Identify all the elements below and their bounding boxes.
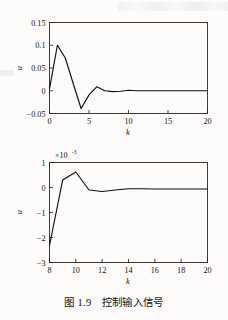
plot-frame-top (50, 23, 208, 114)
series-line-top (50, 45, 208, 108)
x-tick-labels-top: 05101520 (47, 117, 211, 126)
chart-top-control-input: −0.0500.050.10.15 05101520 u k (0, 14, 228, 142)
axis-multiplier-bottom: ×10 -3 (55, 149, 77, 160)
y-tick-label: 0 (41, 184, 45, 193)
x-tick-label: 20 (203, 266, 211, 275)
scan-artifact-top (118, 2, 228, 11)
svg-text:-3: -3 (72, 149, 77, 155)
x-tick-label: 5 (87, 117, 91, 126)
x-tick-label: 20 (203, 117, 211, 126)
x-tick-labels-bottom: 8101214161820 (47, 266, 211, 275)
x-tick-label: 18 (177, 266, 185, 275)
x-tick-label: 12 (98, 266, 106, 275)
figure-caption: 图 1.9 控制输入信号 (0, 294, 228, 309)
y-ticks-top (50, 23, 54, 114)
x-axis-title-top: k (126, 127, 130, 137)
x-tick-label: 16 (151, 266, 159, 275)
y-tick-labels-top: −0.0500.050.10.15 (27, 19, 46, 119)
x-tick-label: 0 (47, 117, 51, 126)
x-ticks-top (50, 110, 208, 114)
svg-text:×10: ×10 (55, 151, 68, 160)
series-path (50, 172, 208, 246)
y-tick-labels-bottom: −3−2−101 (37, 159, 46, 268)
y-ticks-bottom (50, 163, 54, 263)
y-tick-label: 1 (41, 159, 45, 168)
y-axis-title-bottom: u (14, 210, 24, 214)
series-line-bottom (50, 172, 208, 246)
y-tick-label: 0.15 (31, 19, 45, 28)
x-tick-label: 8 (47, 266, 51, 275)
y-axis-title-top: u (14, 66, 24, 70)
y-tick-label: −3 (37, 259, 46, 268)
x-tick-label: 10 (124, 117, 132, 126)
y-tick-label: 0 (41, 87, 45, 96)
y-tick-label: −0.05 (27, 110, 46, 119)
x-ticks-bottom (50, 259, 208, 263)
y-tick-label: 0.05 (31, 64, 45, 73)
x-tick-label: 15 (164, 117, 172, 126)
figure-control-input-signal: −0.0500.050.10.15 05101520 u k −3−2−101 … (0, 0, 228, 320)
plot-frame-bottom (50, 163, 208, 263)
y-tick-label: 0.1 (35, 41, 45, 50)
x-axis-title-bottom: k (126, 276, 130, 286)
x-tick-label: 14 (124, 266, 132, 275)
chart-bottom-control-input-zoom: −3−2−101 8101214161820 ×10 -3 u k (0, 148, 228, 288)
series-path (50, 45, 208, 108)
y-tick-label: −1 (37, 209, 46, 218)
y-tick-label: −2 (37, 234, 46, 243)
x-tick-label: 10 (72, 266, 80, 275)
